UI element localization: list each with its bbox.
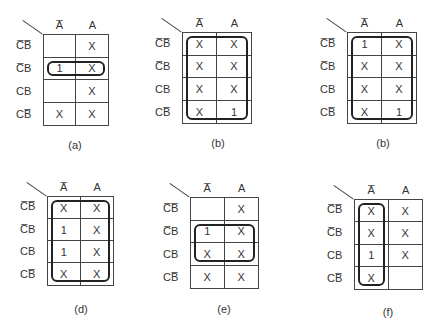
kmap-cell: X bbox=[183, 56, 217, 79]
kmap-cell bbox=[389, 267, 423, 289]
kmap-cell: X bbox=[183, 33, 217, 56]
corner-diagonal-line bbox=[326, 18, 347, 33]
kmap-cell: 1 bbox=[217, 101, 251, 124]
kmap-cell: X bbox=[225, 198, 259, 221]
kmap-grid: XX1X1XXX bbox=[47, 196, 114, 286]
row-header: CB bbox=[320, 83, 335, 95]
column-header: A bbox=[390, 17, 410, 29]
row-header: C̅B̅ bbox=[20, 200, 35, 212]
kmap-cell: 1 bbox=[355, 245, 389, 267]
kmap-cell bbox=[191, 198, 225, 221]
kmap-cell: 1 bbox=[382, 101, 416, 124]
kmap-cell: X bbox=[355, 222, 389, 244]
column-header: A bbox=[396, 184, 416, 196]
kmap-cell bbox=[44, 80, 76, 103]
kmap-cell: X bbox=[76, 80, 108, 103]
map-caption: (b) bbox=[368, 137, 398, 149]
kmap-cell: X bbox=[225, 221, 259, 244]
kmap-cell: X bbox=[389, 200, 423, 222]
kmap-cell: X bbox=[382, 78, 416, 101]
row-header: CB̅ bbox=[16, 108, 31, 120]
kmap-cell: X bbox=[81, 197, 114, 219]
row-header: C̅B̅ bbox=[163, 202, 178, 214]
row-header: CB̅ bbox=[20, 268, 35, 280]
kmap-grid: XXXX1XX bbox=[354, 199, 423, 290]
kmap-cell: X bbox=[225, 266, 259, 289]
kmap-cell: 1 bbox=[48, 241, 81, 263]
kmap-cell: X bbox=[355, 200, 389, 222]
row-header: C̅B̅ bbox=[16, 39, 31, 51]
kmap-cell: X bbox=[81, 219, 114, 241]
column-header: A̅ bbox=[361, 184, 381, 196]
row-header: CB̅ bbox=[327, 272, 342, 284]
column-header: A̅ bbox=[190, 17, 210, 29]
map-caption: (d) bbox=[66, 303, 96, 315]
kmap-cell: X bbox=[348, 78, 382, 101]
kmap-cell: X bbox=[48, 263, 81, 285]
kmap-grid: 1XXXXXX1 bbox=[347, 32, 417, 124]
column-header: A bbox=[87, 181, 107, 193]
corner-diagonal-line bbox=[161, 18, 182, 33]
kmap-cell bbox=[44, 35, 76, 58]
map-caption: (f) bbox=[373, 306, 403, 318]
kmap-cell: X bbox=[389, 245, 423, 267]
row-header: CB̅ bbox=[320, 106, 335, 118]
kmap-cell: 1 bbox=[191, 221, 225, 244]
kmap-cell: X bbox=[355, 267, 389, 289]
kmap-cell: X bbox=[217, 56, 251, 79]
kmap-cell: X bbox=[76, 58, 108, 81]
row-header: C̅B̅ bbox=[155, 37, 170, 49]
row-header: C̅B̅ bbox=[320, 37, 335, 49]
kmap-cell: X bbox=[76, 103, 108, 126]
column-header: A̅ bbox=[54, 181, 74, 193]
column-header: A̅ bbox=[197, 182, 217, 194]
kmap-cell: 1 bbox=[348, 33, 382, 56]
kmap-cell: 1 bbox=[44, 58, 76, 81]
column-header: A̅ bbox=[50, 19, 70, 31]
column-header: A bbox=[83, 19, 103, 31]
kmap-cell: 1 bbox=[48, 219, 81, 241]
kmap-cell: X bbox=[348, 101, 382, 124]
row-header: C̅B bbox=[320, 60, 335, 72]
row-header: C̅B bbox=[327, 226, 342, 238]
kmap-cell: X bbox=[191, 266, 225, 289]
row-header: CB bbox=[16, 85, 31, 97]
kmap-cell: X bbox=[191, 243, 225, 266]
kmap-cell: X bbox=[81, 241, 114, 263]
row-header: CB bbox=[163, 248, 178, 260]
corner-diagonal-line bbox=[169, 183, 190, 198]
kmap-cell: X bbox=[183, 101, 217, 124]
map-caption: (e) bbox=[209, 303, 239, 315]
row-header: C̅B bbox=[163, 225, 178, 237]
kmap-cell: X bbox=[48, 197, 81, 219]
map-caption: (a) bbox=[60, 139, 90, 151]
row-header: C̅B̅ bbox=[327, 203, 342, 215]
kmap-cell: X bbox=[44, 103, 76, 126]
kmap-grid: X1XXXX bbox=[43, 34, 109, 126]
column-header: A bbox=[225, 17, 245, 29]
row-header: CB̅ bbox=[155, 106, 170, 118]
kmap-cell: X bbox=[348, 56, 382, 79]
row-header: CB bbox=[155, 83, 170, 95]
row-header: CB̅ bbox=[163, 271, 178, 283]
row-header: C̅B bbox=[155, 60, 170, 72]
kmap-cell: X bbox=[81, 263, 114, 285]
column-header: A bbox=[232, 182, 252, 194]
row-header: CB bbox=[20, 245, 35, 257]
kmap-grid: XXXXXXX1 bbox=[182, 32, 252, 124]
corner-diagonal-line bbox=[22, 20, 43, 35]
map-caption: (b) bbox=[203, 137, 233, 149]
kmap-cell: X bbox=[389, 222, 423, 244]
corner-diagonal-line bbox=[333, 185, 354, 200]
kmap-grid: X1XXXXX bbox=[190, 197, 259, 289]
row-header: C̅B bbox=[20, 223, 35, 235]
column-header: A̅ bbox=[355, 17, 375, 29]
kmap-cell: X bbox=[76, 35, 108, 58]
row-header: CB bbox=[327, 249, 342, 261]
corner-diagonal-line bbox=[26, 182, 47, 197]
kmap-cell: X bbox=[225, 243, 259, 266]
kmap-cell: X bbox=[217, 33, 251, 56]
row-header: C̅B bbox=[16, 62, 31, 74]
kmap-cell: X bbox=[382, 56, 416, 79]
kmap-cell: X bbox=[217, 78, 251, 101]
